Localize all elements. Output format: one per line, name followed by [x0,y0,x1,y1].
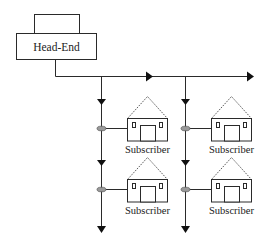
feeder-arrow-icon [97,226,106,233]
feeder-arrow-icon [181,99,190,105]
trunk-arrow-icon-2 [247,72,254,82]
feeder-arrow-icon [181,226,190,233]
subscriber-label: Subscriber [125,144,170,155]
trunk-arrow-icon-1 [146,72,153,82]
house-icon [212,97,252,142]
subscriber-label: Subscriber [209,144,254,155]
cable-network-diagram: Head-End [0,0,267,246]
house-icon [128,158,168,203]
tap-oval-icon [181,187,190,192]
tap-oval-icon [97,126,106,131]
house-icon [128,97,168,142]
head-end-node: Head-End [17,15,97,60]
subscriber-label: Subscriber [125,205,170,216]
subscriber-2: Subscriber [181,97,254,156]
head-end-label: Head-End [33,41,80,53]
feeder-line-1 [97,77,106,234]
subscriber-4: Subscriber [181,158,254,217]
tap-oval-icon [97,187,106,192]
tap-oval-icon [181,126,190,131]
feeder-arrow-icon [97,99,106,105]
trunk-line [56,60,255,82]
feeder-arrow-icon [97,160,106,166]
subscriber-1: Subscriber [97,97,170,156]
feeder-arrow-icon [181,160,190,166]
feeder-line-2 [181,77,190,234]
house-icon [212,158,252,203]
subscriber-label: Subscriber [209,205,254,216]
head-end-top-box [35,15,80,34]
subscriber-3: Subscriber [97,158,170,217]
